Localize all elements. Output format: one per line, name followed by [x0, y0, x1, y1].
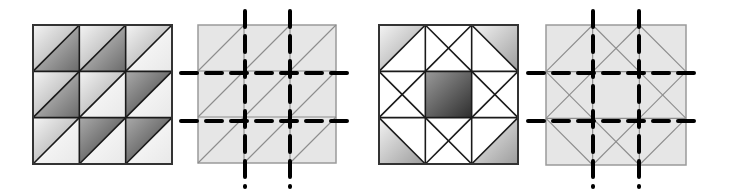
panel-grid-cut-lines-2 [528, 11, 700, 187]
light-square [546, 25, 686, 165]
center-square [425, 71, 471, 117]
panel-grid-cut-lines-1 [181, 11, 350, 187]
panel-star-block [379, 25, 518, 164]
quilt-diagram [0, 0, 729, 195]
panel-shaded-triangles [33, 25, 172, 164]
